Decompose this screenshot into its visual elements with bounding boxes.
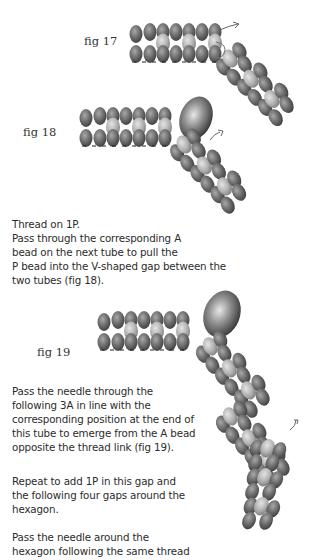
fig18-diagram xyxy=(80,92,254,226)
fig18-label: fig 18 xyxy=(23,125,56,139)
text-line: hexagon. xyxy=(12,502,185,516)
instruction-paragraph-3: Repeat to add 1P in this gap and the fol… xyxy=(12,474,185,516)
text-line: this tube to emerge from the A bead xyxy=(12,426,195,440)
text-line: corresponding position at the end of xyxy=(12,412,195,426)
text-line: following 3A in line with the xyxy=(12,398,195,412)
text-line: Pass through the corresponding A xyxy=(12,231,226,245)
text-line: bead on the next tube to pull the xyxy=(12,245,226,259)
text-line: Pass the needle through the xyxy=(12,384,195,398)
text-line: Repeat to add 1P in this gap and xyxy=(12,474,185,488)
fig17-label: fig 17 xyxy=(84,34,117,48)
instruction-paragraph-2: Pass the needle through the following 3A… xyxy=(12,384,195,454)
fig19-label: fig 19 xyxy=(37,345,70,359)
instruction-paragraph-1: Thread on 1P. Pass through the correspon… xyxy=(12,217,226,287)
text-line: Pass the needle around the xyxy=(12,530,190,544)
text-line: opposite the thread link (fig 19). xyxy=(12,440,195,454)
text-line: two tubes (fig 18). xyxy=(12,273,226,287)
instruction-paragraph-4: Pass the needle around the hexagon follo… xyxy=(12,530,190,558)
text-line: the following four gaps around the xyxy=(12,488,185,502)
text-line: Thread on 1P. xyxy=(12,217,226,231)
text-line: P bead into the V-shaped gap between the xyxy=(12,259,226,273)
text-line: hexagon following the same thread xyxy=(12,544,190,558)
